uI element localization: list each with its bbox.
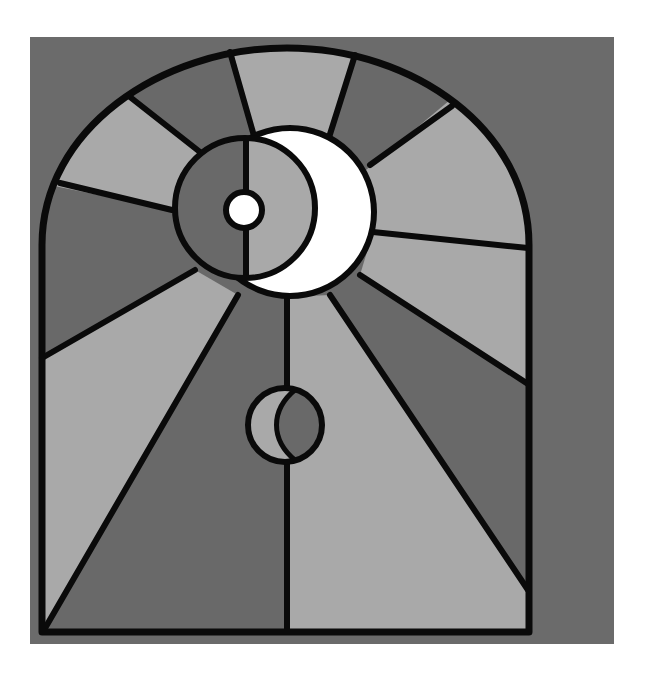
small-sun: [226, 192, 262, 228]
stained-glass-artwork: [0, 0, 645, 673]
small-moon: [248, 388, 324, 462]
